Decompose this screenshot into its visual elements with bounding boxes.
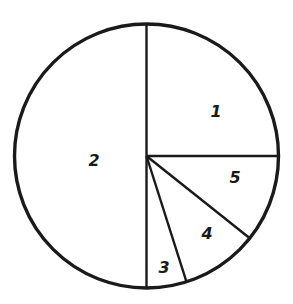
slice-label-2: 2 [88,151,99,170]
pie-chart: 1 5 4 3 2 [0,0,293,304]
slice-label-5: 5 [229,168,240,187]
slice-label-4: 4 [200,224,212,243]
slice-label-1: 1 [210,102,221,121]
slice-label-3: 3 [158,258,169,277]
